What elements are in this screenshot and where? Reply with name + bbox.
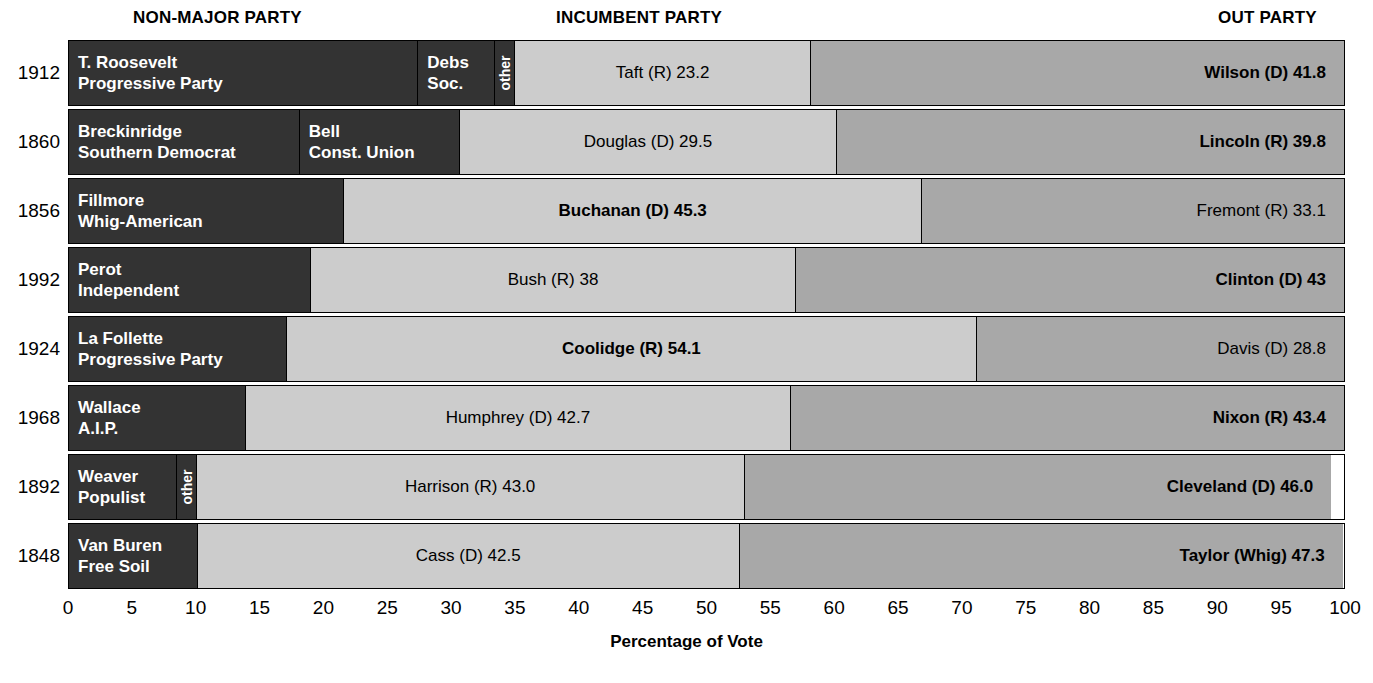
segment-candidate-label: Harrison (R) 43.0 <box>197 477 744 497</box>
segment-party-label: WallaceA.I.P. <box>69 397 146 439</box>
chart-row: 1912T. RooseveltProgressive PartyDebsSoc… <box>0 40 1373 106</box>
segment-candidate-label: Buchanan (D) 45.3 <box>344 201 921 221</box>
bar-segment-out: Wilson (D) 41.8 <box>811 41 1344 105</box>
segment-label-line2: Southern Democrat <box>78 142 236 163</box>
bar-rows: 1912T. RooseveltProgressive PartyDebsSoc… <box>0 40 1373 592</box>
segment-candidate-label: Taft (R) 23.2 <box>515 63 810 83</box>
bar-segment-incumbent: Coolidge (R) 54.1 <box>287 317 977 381</box>
segment-label-line1: Debs <box>427 52 469 73</box>
column-header-out-party: OUT PARTY <box>1218 8 1317 28</box>
bar-segment-incumbent: Buchanan (D) 45.3 <box>344 179 922 243</box>
segment-label-line1: La Follette <box>78 328 223 349</box>
segment-label-line2: Independent <box>78 280 179 301</box>
segment-party-label: T. RooseveltProgressive Party <box>69 52 228 94</box>
axis-tick-label: 25 <box>377 597 398 619</box>
axis-tick-label: 10 <box>185 597 206 619</box>
election-vote-share-chart: NON-MAJOR PARTY INCUMBENT PARTY OUT PART… <box>0 0 1373 683</box>
axis-tick-label: 5 <box>127 597 138 619</box>
segment-party-label: BellConst. Union <box>300 121 420 163</box>
stacked-bar: Van BurenFree SoilCass (D) 42.5Taylor (W… <box>68 523 1345 589</box>
bar-segment-nonmajor: T. RooseveltProgressive Party <box>69 41 418 105</box>
stacked-bar: BreckinridgeSouthern DemocratBellConst. … <box>68 109 1345 175</box>
segment-label-line1: Fillmore <box>78 190 203 211</box>
segment-label-line1: Weaver <box>78 466 145 487</box>
segment-party-label: WeaverPopulist <box>69 466 150 508</box>
segment-label-line1: Perot <box>78 259 179 280</box>
row-year-label: 1924 <box>10 316 60 382</box>
segment-label-line2: Soc. <box>427 73 469 94</box>
row-year-label: 1968 <box>10 385 60 451</box>
axis-tick-label: 35 <box>504 597 525 619</box>
bar-segment-incumbent: Harrison (R) 43.0 <box>197 455 745 519</box>
segment-candidate-label: Cass (D) 42.5 <box>198 546 739 566</box>
bar-segment-nonmajor: other <box>177 455 196 519</box>
axis-tick-label: 40 <box>568 597 589 619</box>
segment-candidate-label: Cleveland (D) 46.0 <box>745 477 1332 497</box>
segment-label-line1: Bell <box>309 121 415 142</box>
segment-candidate-label: Clinton (D) 43 <box>796 270 1344 290</box>
bar-segment-nonmajor: La FolletteProgressive Party <box>69 317 287 381</box>
chart-row: 1848Van BurenFree SoilCass (D) 42.5Taylo… <box>0 523 1373 589</box>
bar-segment-out: Nixon (R) 43.4 <box>791 386 1344 450</box>
x-axis-title: Percentage of Vote <box>0 632 1373 652</box>
segment-party-label: Van BurenFree Soil <box>69 535 167 577</box>
segment-candidate-label: Lincoln (R) 39.8 <box>837 132 1344 152</box>
segment-label-line2: Const. Union <box>309 142 415 163</box>
segment-label-line2: Populist <box>78 487 145 508</box>
axis-tick-label: 70 <box>951 597 972 619</box>
axis-tick-label: 55 <box>760 597 781 619</box>
bar-segment-out: Fremont (R) 33.1 <box>922 179 1344 243</box>
chart-row: 1992PerotIndependentBush (R) 38Clinton (… <box>0 247 1373 313</box>
row-year-label: 1860 <box>10 109 60 175</box>
row-year-label: 1912 <box>10 40 60 106</box>
axis-tick-label: 0 <box>63 597 74 619</box>
bar-segment-nonmajor: BellConst. Union <box>300 110 461 174</box>
segment-party-label: La FolletteProgressive Party <box>69 328 228 370</box>
bar-segment-nonmajor: Van BurenFree Soil <box>69 524 198 588</box>
axis-tick-label: 20 <box>313 597 334 619</box>
x-axis: 0510152025303540455055606570758085909510… <box>68 597 1345 625</box>
segment-other-text: other <box>178 470 194 505</box>
bar-segment-nonmajor: FillmoreWhig-American <box>69 179 344 243</box>
segment-label-line2: Progressive Party <box>78 73 223 94</box>
segment-label-line1: Van Buren <box>78 535 162 556</box>
row-year-label: 1848 <box>10 523 60 589</box>
bar-segment-nonmajor: WallaceA.I.P. <box>69 386 246 450</box>
segment-candidate-label: Douglas (D) 29.5 <box>460 132 835 152</box>
segment-other-label: other <box>495 41 514 105</box>
chart-row: 1856FillmoreWhig-AmericanBuchanan (D) 45… <box>0 178 1373 244</box>
axis-tick-label: 65 <box>887 597 908 619</box>
chart-row: 1892WeaverPopulistotherHarrison (R) 43.0… <box>0 454 1373 520</box>
bar-segment-incumbent: Douglas (D) 29.5 <box>460 110 836 174</box>
bar-segment-nonmajor: PerotIndependent <box>69 248 311 312</box>
segment-candidate-label: Coolidge (R) 54.1 <box>287 339 976 359</box>
segment-label-line2: A.I.P. <box>78 418 141 439</box>
bar-segment-nonmajor: other <box>495 41 515 105</box>
row-year-label: 1992 <box>10 247 60 313</box>
segment-candidate-label: Wilson (D) 41.8 <box>811 63 1344 83</box>
segment-party-label: PerotIndependent <box>69 259 184 301</box>
segment-party-label: FillmoreWhig-American <box>69 190 208 232</box>
column-header-nonmajor-party: NON-MAJOR PARTY <box>133 8 302 28</box>
segment-other-text: other <box>497 56 513 91</box>
chart-row: 1860BreckinridgeSouthern DemocratBellCon… <box>0 109 1373 175</box>
segment-candidate-label: Nixon (R) 43.4 <box>791 408 1344 428</box>
axis-tick-label: 30 <box>441 597 462 619</box>
axis-tick-label: 100 <box>1329 597 1361 619</box>
axis-tick-label: 60 <box>824 597 845 619</box>
segment-label-line2: Free Soil <box>78 556 162 577</box>
axis-tick-label: 75 <box>1015 597 1036 619</box>
segment-label-line2: Whig-American <box>78 211 203 232</box>
segment-label-line1: Wallace <box>78 397 141 418</box>
bar-segment-incumbent: Bush (R) 38 <box>311 248 796 312</box>
axis-tick-label: 95 <box>1271 597 1292 619</box>
stacked-bar: T. RooseveltProgressive PartyDebsSoc.oth… <box>68 40 1345 106</box>
segment-label-line2: Progressive Party <box>78 349 223 370</box>
axis-tick-label: 90 <box>1207 597 1228 619</box>
bar-segment-out: Lincoln (R) 39.8 <box>837 110 1344 174</box>
bar-segment-nonmajor: WeaverPopulist <box>69 455 177 519</box>
segment-other-label: other <box>177 455 195 519</box>
bar-segment-out: Davis (D) 28.8 <box>977 317 1344 381</box>
segment-party-label: DebsSoc. <box>418 52 474 94</box>
chart-row: 1924La FolletteProgressive PartyCoolidge… <box>0 316 1373 382</box>
